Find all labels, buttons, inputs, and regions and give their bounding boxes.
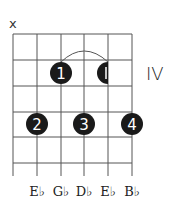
position-label: IV [146,63,164,84]
finger-dot-4: 4 [121,113,143,135]
string-lines [13,34,132,176]
string-labels: E♭ G♭ D♭ E♭ B♭ [29,184,140,199]
finger-label: 1 [56,65,66,83]
muted-string-marker: x [9,16,17,31]
finger-label: 3 [79,116,89,134]
finger-dot-2: 2 [26,113,48,135]
chord-diagram: x 1 IV 2 3 4 [0,0,169,209]
string-label: E♭ [100,184,116,199]
finger-dot-1: 1 [50,62,72,84]
finger-label: 4 [127,116,137,134]
string-label: D♭ [76,184,93,199]
finger-label: 2 [32,116,42,134]
finger-dot-3: 3 [73,113,95,135]
string-label: E♭ [29,184,45,199]
string-label: G♭ [53,184,70,199]
finger-dot-1-partial [97,62,108,84]
string-label: B♭ [124,184,140,199]
